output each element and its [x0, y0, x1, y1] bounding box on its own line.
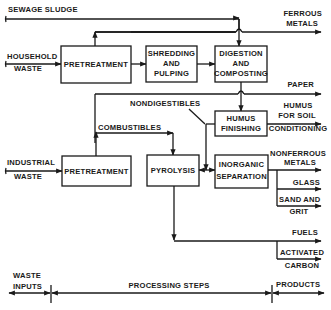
timeline-waste-label-2: INPUTS	[13, 282, 42, 291]
sand-label-1: SAND AND	[279, 195, 321, 204]
activated-label-2: CARBON	[285, 261, 320, 270]
timeline-products-label: PRODUCTS	[276, 280, 320, 289]
shredding-pulping-box: SHREDDING AND PULPING	[146, 46, 197, 82]
digestion-label-1: DIGESTION	[219, 49, 263, 58]
combustibles-label: COMBUSTIBLES	[98, 123, 161, 132]
inorganic-label-2: SEPARATION	[216, 172, 267, 181]
process-flow-diagram: SEWAGE SLUDGE FERROUS METALS HOUSEHOLD W…	[0, 0, 331, 310]
household-label-2: WASTE	[14, 64, 42, 73]
ferrous-label-1: FERROUS	[283, 9, 322, 18]
sewage-sludge-label: SEWAGE SLUDGE	[8, 5, 78, 14]
humus-soil-output: HUMUS FOR SOIL CONDITIONING	[267, 101, 327, 133]
digestion-composting-box: DIGESTION AND COMPOSTING	[214, 46, 268, 82]
nonferrous-label-1: NONFERROUS	[270, 149, 326, 158]
timeline: WASTE INPUTS PROCESSING STEPS PRODUCTS	[9, 271, 324, 303]
shredding-label-2: AND	[163, 59, 180, 68]
glass-label: GLASS	[293, 178, 320, 187]
shredding-label-3: PULPING	[154, 69, 189, 78]
ferrous-label-2: METALS	[286, 19, 318, 28]
pretreatment-industrial-label: PRETREATMENT	[64, 167, 128, 176]
humus-finishing-box: HUMUS FINISHING	[215, 111, 267, 136]
sand-label-2: GRIT	[290, 207, 309, 216]
pretreatment-household-label: PRETREATMENT	[64, 60, 128, 69]
ferrous-metals-output: FERROUS METALS	[131, 9, 322, 32]
combustibles-flow: COMBUSTIBLES	[96, 123, 173, 155]
inorganic-label-1: INORGANIC	[219, 160, 265, 169]
humus-soil-label-2: FOR SOIL	[278, 111, 316, 120]
humus-soil-label-1: HUMUS	[284, 101, 313, 110]
industrial-waste-input: INDUSTRIAL WASTE	[6, 158, 63, 181]
paper-label: PAPER	[287, 80, 314, 89]
timeline-processing-label: PROCESSING STEPS	[129, 281, 210, 290]
sewage-sludge-input: SEWAGE SLUDGE	[6, 5, 240, 30]
timeline-waste-label-1: WASTE	[13, 271, 41, 280]
humus-soil-label-3: CONDITIONING	[269, 124, 328, 133]
nonferrous-label-2: METALS	[284, 158, 316, 167]
nondigestibles-leader	[189, 109, 205, 124]
nondigestibles-label: NONDIGESTIBLES	[130, 99, 200, 108]
inorganic-separation-box: INORGANIC SEPARATION	[215, 155, 268, 188]
pretreatment-household-box: PRETREATMENT	[61, 46, 131, 83]
pretreatment-industrial-box: PRETREATMENT	[62, 156, 131, 186]
humus-label-1: HUMUS	[227, 114, 256, 123]
pyrolysis-label: PYROLYSIS	[151, 166, 196, 175]
pyrolysis-box: PYROLYSIS	[147, 155, 199, 186]
household-waste-input: HOUSEHOLD WASTE	[6, 52, 62, 73]
pretreatment-to-digestion-line	[95, 32, 236, 46]
input-tail-icon	[6, 16, 7, 22]
digestion-label-3: COMPOSTING	[214, 69, 268, 78]
industrial-label-1: INDUSTRIAL	[7, 158, 55, 167]
shredding-label-1: SHREDDING	[148, 49, 195, 58]
humus-label-2: FINISHING	[221, 124, 261, 133]
digestion-label-2: AND	[232, 59, 249, 68]
household-label-1: HOUSEHOLD	[7, 52, 58, 61]
fuels-label: FUELS	[292, 228, 318, 237]
activated-label-1: ACTIVATED	[280, 248, 324, 257]
inorganic-outputs: NONFERROUS METALS GLASS SAND AND GRIT	[268, 149, 326, 216]
industrial-label-2: WASTE	[14, 172, 42, 181]
